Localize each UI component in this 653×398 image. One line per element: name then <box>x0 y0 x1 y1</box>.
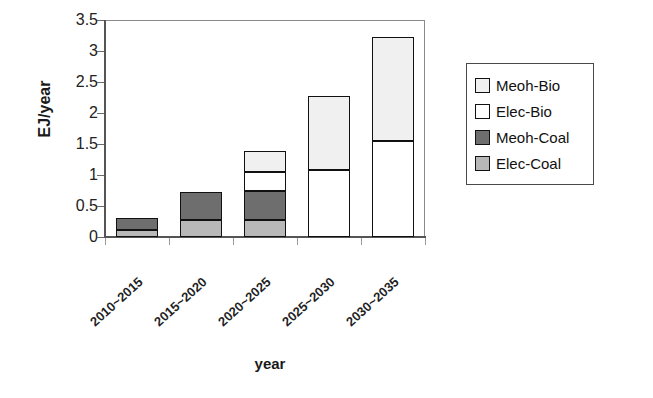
bar-segment-meoh-coal[interactable] <box>116 218 158 229</box>
x-tick-mark <box>169 238 170 245</box>
bar-chart: EJ/year 00.511.522.533.5 2010~20152015~2… <box>0 0 653 398</box>
y-tick-label: 2.5 <box>52 74 98 90</box>
x-tick-label: 2020~2025 <box>215 274 274 329</box>
legend-label: Meoh-Coal <box>496 130 569 145</box>
bar-segment-meoh-bio[interactable] <box>244 151 286 171</box>
bar-group[interactable] <box>372 20 414 237</box>
y-tick-label: 1 <box>52 167 98 183</box>
bar-group[interactable] <box>244 20 286 237</box>
legend-item[interactable]: Elec-Bio <box>475 98 587 124</box>
bar-group[interactable] <box>180 20 222 237</box>
legend-item[interactable]: Meoh-Coal <box>475 124 587 150</box>
y-tick-label: 2 <box>52 105 98 121</box>
legend-swatch-icon <box>475 130 490 145</box>
bar-segment-elec-bio[interactable] <box>308 170 350 237</box>
y-tick-label: 1.5 <box>52 136 98 152</box>
bar-segment-meoh-bio[interactable] <box>372 37 414 141</box>
x-tick-mark <box>361 238 362 245</box>
bar-segment-elec-bio[interactable] <box>372 141 414 237</box>
legend-label: Elec-Bio <box>496 104 552 119</box>
y-tick-label: 0 <box>52 229 98 245</box>
bar-segment-elec-bio[interactable] <box>244 172 286 191</box>
legend: Meoh-BioElec-BioMeoh-CoalElec-Coal <box>466 63 594 185</box>
x-tick-mark <box>425 238 426 245</box>
bar-series-layer <box>105 20 425 237</box>
bar-segment-meoh-bio[interactable] <box>308 96 350 170</box>
bar-segment-elec-coal[interactable] <box>244 220 286 237</box>
bar-segment-elec-coal[interactable] <box>116 230 158 237</box>
x-tick-label: 2025~2030 <box>279 274 338 329</box>
legend-item[interactable]: Meoh-Bio <box>475 72 587 98</box>
legend-label: Meoh-Bio <box>496 78 560 93</box>
bar-segment-elec-coal[interactable] <box>180 220 222 237</box>
bar-group[interactable] <box>116 20 158 237</box>
x-tick-label: 2015~2020 <box>151 274 210 329</box>
legend-swatch-icon <box>475 78 490 93</box>
x-tick-mark <box>105 238 106 245</box>
bar-group[interactable] <box>308 20 350 237</box>
legend-item[interactable]: Elec-Coal <box>475 150 587 176</box>
x-axis-title: year <box>180 355 360 372</box>
y-tick-label: 3.5 <box>52 12 98 28</box>
legend-label: Elec-Coal <box>496 156 561 171</box>
y-tick-label: 0.5 <box>52 198 98 214</box>
legend-swatch-icon <box>475 156 490 171</box>
x-tick-label: 2030~2035 <box>343 274 402 329</box>
x-tick-mark <box>297 238 298 245</box>
x-tick-mark <box>233 238 234 245</box>
y-axis-tick-labels: 00.511.522.533.5 <box>52 0 98 398</box>
bar-segment-meoh-coal[interactable] <box>180 192 222 221</box>
bar-segment-meoh-coal[interactable] <box>244 191 286 220</box>
legend-swatch-icon <box>475 104 490 119</box>
y-tick-label: 3 <box>52 43 98 59</box>
